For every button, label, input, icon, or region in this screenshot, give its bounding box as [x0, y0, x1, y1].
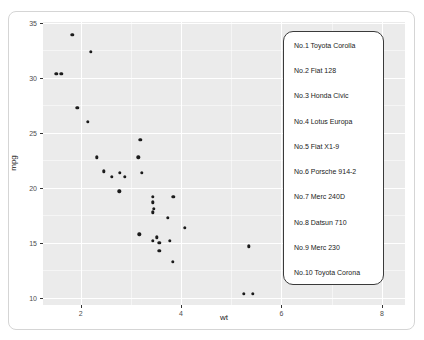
data-point: [158, 249, 161, 252]
data-point: [55, 72, 58, 75]
data-point: [138, 232, 141, 235]
x-minor-gridline: [231, 22, 232, 305]
data-point: [247, 245, 250, 248]
data-point: [172, 195, 175, 198]
data-point: [89, 50, 92, 53]
data-point: [118, 190, 121, 193]
data-point: [242, 292, 245, 295]
x-tick-mark: [181, 305, 182, 308]
y-tick-label: 30: [0, 74, 37, 81]
x-major-gridline: [81, 22, 82, 305]
data-point: [151, 195, 154, 198]
data-point: [151, 210, 154, 213]
legend-item: No.3 Honda Civic: [294, 92, 377, 99]
data-point: [158, 241, 161, 244]
data-point: [95, 155, 98, 158]
y-tick-mark: [40, 78, 43, 79]
legend-item: No.8 Datsun 710: [294, 219, 377, 226]
legend-box: No.1 Toyota CorollaNo.2 Fiat 128No.3 Hon…: [283, 31, 384, 285]
data-point: [155, 236, 158, 239]
data-point: [123, 175, 126, 178]
legend-item: No.10 Toyota Corona: [294, 269, 377, 276]
legend-item: No.9 Merc 230: [294, 244, 377, 251]
y-tick-label: 15: [0, 239, 37, 246]
x-tick-mark: [382, 305, 383, 308]
y-tick-mark: [40, 243, 43, 244]
legend-item: No.1 Toyota Corolla: [294, 42, 377, 49]
data-point: [166, 216, 169, 219]
data-point: [151, 239, 154, 242]
legend-item: No.5 Fiat X1-9: [294, 143, 377, 150]
data-point: [251, 292, 254, 295]
data-point: [86, 120, 89, 123]
y-major-gridline: [43, 298, 405, 299]
data-point: [171, 260, 174, 263]
y-axis-title: mpg: [9, 155, 18, 171]
legend-item: No.7 Merc 240D: [294, 193, 377, 200]
y-major-gridline: [43, 23, 405, 24]
y-tick-label: 10: [0, 294, 37, 301]
x-minor-gridline: [131, 22, 132, 305]
data-point: [118, 171, 121, 174]
legend-item: No.4 Lotus Europa: [294, 118, 377, 125]
y-tick-mark: [40, 133, 43, 134]
data-point: [76, 106, 79, 109]
data-point: [60, 72, 63, 75]
y-tick-mark: [40, 188, 43, 189]
legend-item: No.2 Fiat 128: [294, 67, 377, 74]
data-point: [151, 201, 154, 204]
y-tick-mark: [40, 298, 43, 299]
data-point: [110, 175, 113, 178]
data-point: [183, 226, 186, 229]
x-tick-mark: [81, 305, 82, 308]
x-axis-title: wt: [43, 313, 405, 322]
y-tick-label: 25: [0, 129, 37, 136]
data-point: [140, 171, 143, 174]
data-point: [168, 239, 171, 242]
x-tick-mark: [281, 305, 282, 308]
x-major-gridline: [181, 22, 182, 305]
y-tick-label: 35: [0, 19, 37, 26]
data-point: [71, 33, 74, 36]
y-tick-label: 20: [0, 184, 37, 191]
data-point: [137, 155, 140, 158]
data-point: [139, 138, 142, 141]
scatter-plot-figure: 2468101520253035 wt mpg No.1 Toyota Coro…: [0, 0, 424, 340]
legend-item: No.6 Porsche 914-2: [294, 168, 377, 175]
data-point: [102, 170, 105, 173]
y-tick-mark: [40, 23, 43, 24]
